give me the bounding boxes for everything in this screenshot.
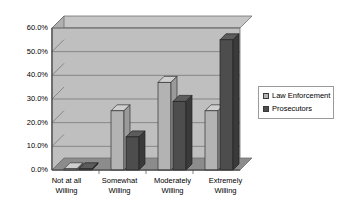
x-axis-labels: Not at all Willing Somewhat Willing Mode… [40,176,252,204]
x-tick-label-extremely-willing: Extremely Willing [199,176,252,204]
x-label-line-2: Willing [93,186,146,196]
y-tick-label: 30.0% [2,95,48,103]
x-axis-ticks [99,170,193,174]
y-tick-label: 20.0% [2,119,48,127]
bar-prosecutors-moderately-willing [173,95,192,170]
bar-prosecutors-extremely-willing [220,34,239,170]
y-tick-label: 50.0% [2,48,48,56]
x-label-line-2: Willing [146,186,199,196]
x-label-line-2: Willing [40,186,93,196]
legend-swatch-law-enforcement [263,93,269,99]
x-label-line-1: Moderately [146,176,199,186]
x-label-line-1: Somewhat [93,176,146,186]
x-label-line-2: Willing [199,186,252,196]
legend-label-prosecutors: Prosecutors [272,104,312,113]
x-label-line-1: Not at all [40,176,93,186]
bar-prosecutors-somewhat-willing [126,131,145,170]
y-tick-label: 40.0% [2,71,48,79]
legend-label-law-enforcement: Law Enforcement [272,91,330,100]
chart-legend: Law Enforcement Prosecutors [258,86,334,119]
bar-chart: 60.0% 50.0% 40.0% 30.0% 20.0% 10.0% 0.0%… [0,0,341,206]
x-tick-label-not-at-all-willing: Not at all Willing [40,176,93,204]
x-tick-label-somewhat-willing: Somewhat Willing [93,176,146,204]
plot-area: 60.0% 50.0% 40.0% 30.0% 20.0% 10.0% 0.0%… [0,0,341,206]
bar-group-not-at-all-willing [64,163,98,170]
x-label-line-1: Extremely [199,176,252,186]
y-tick-label: 0.0% [2,166,48,174]
plot-top-face [52,16,252,28]
legend-item-law-enforcement: Law Enforcement [263,91,330,100]
legend-swatch-prosecutors [263,106,269,112]
y-tick-label: 60.0% [2,24,48,32]
legend-item-prosecutors: Prosecutors [263,104,330,113]
y-tick-label: 10.0% [2,142,48,150]
x-tick-label-moderately-willing: Moderately Willing [146,176,199,204]
